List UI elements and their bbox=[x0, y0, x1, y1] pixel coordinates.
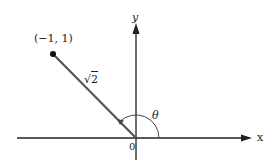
diagram-canvas bbox=[0, 0, 270, 163]
x-axis-label: x bbox=[257, 132, 263, 143]
angle-label: θ bbox=[152, 110, 159, 121]
y-axis-label: y bbox=[132, 12, 138, 23]
y-axis-arrow-icon bbox=[133, 23, 140, 34]
polar-angle-diagram: (−1, 1) √2 θ 0 x y bbox=[0, 0, 270, 163]
origin-label: 0 bbox=[129, 142, 135, 152]
point-coordinates-label: (−1, 1) bbox=[34, 33, 73, 44]
x-axis-arrow-icon bbox=[241, 135, 252, 142]
radius-segment bbox=[53, 54, 136, 138]
point-marker bbox=[50, 51, 56, 57]
radicand: 2 bbox=[91, 71, 98, 86]
segment-length-label: √2 bbox=[84, 74, 98, 85]
radical-sign: √ bbox=[84, 73, 91, 86]
